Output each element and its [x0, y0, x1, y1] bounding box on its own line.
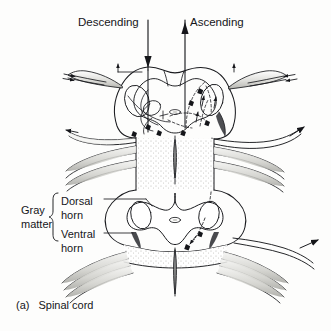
figure-caption-text: Spinal cord [38, 299, 93, 311]
ventral-horn-label-line2: horn [61, 241, 95, 255]
descending-label: Descending [78, 16, 139, 29]
dorsal-horn-label-line1: Dorsal [61, 194, 93, 208]
figure-caption-marker: (a) [16, 299, 29, 311]
dorsal-horn-label-line2: horn [61, 208, 93, 222]
spinal-cord-illustration [0, 0, 331, 331]
ventral-horn-label-line1: Ventral [61, 227, 95, 241]
ventral-horn-label: Ventral horn [61, 227, 95, 255]
gray-matter-label-line1: Gray [21, 203, 52, 217]
dorsal-horn-label: Dorsal horn [61, 194, 93, 222]
figure-caption: (a)Spinal cord [16, 299, 94, 312]
ascending-label: Ascending [190, 16, 244, 29]
spinal-cord-figure: Descending Ascending Gray matter Dorsal … [0, 0, 331, 331]
gray-matter-label-line2: matter [21, 217, 52, 231]
gray-matter-label: Gray matter [21, 203, 52, 231]
lower-cord-section [62, 190, 318, 303]
